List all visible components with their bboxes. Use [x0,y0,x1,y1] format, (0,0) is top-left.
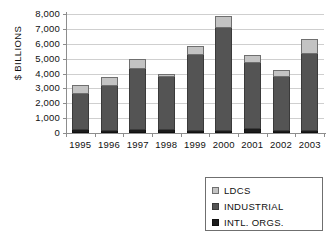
intl-orgs-swatch-icon [212,219,219,226]
bar-group[interactable] [72,14,89,133]
bar-segment-industrial[interactable] [101,86,118,132]
y-tick-label: 8,000 [10,8,60,19]
bar-group[interactable] [244,14,261,133]
x-axis-line [64,133,326,134]
legend-label-industrial: INDUSTRIAL [224,201,283,212]
bar-group[interactable] [158,14,175,133]
y-tick-mark [63,74,67,75]
x-tick-mark [267,133,268,137]
x-tick-mark [66,133,67,137]
bar-group[interactable] [187,14,204,133]
x-tick-mark [209,133,210,137]
bar-segment-ldcs[interactable] [129,59,146,69]
legend-item-ldcs[interactable]: LDCS [212,182,316,198]
bar-segment-ldcs[interactable] [244,55,261,63]
bar-group[interactable] [215,14,232,133]
y-tick-mark [63,118,67,119]
bar-group[interactable] [129,14,146,133]
bar-segment-industrial[interactable] [129,69,146,130]
bar-segment-intl-orgs[interactable] [158,130,175,133]
y-tick-mark [63,103,67,104]
bar-segment-ldcs[interactable] [273,70,290,77]
bar-segment-intl-orgs[interactable] [215,131,232,133]
legend-label-ldcs: LDCS [224,185,251,196]
bar-segment-industrial[interactable] [273,77,290,131]
x-tick-label: 2000 [208,139,240,150]
bar-segment-intl-orgs[interactable] [273,131,290,133]
bar-segment-industrial[interactable] [187,55,204,131]
y-tick-label: 3,000 [10,82,60,93]
bar-group[interactable] [301,14,318,133]
plot-area [66,14,324,133]
y-tick-label: 0 [10,127,60,138]
y-tick-label: 6,000 [10,38,60,49]
bar-segment-industrial[interactable] [215,28,232,131]
x-tick-mark [95,133,96,137]
chart-legend: LDCS INDUSTRIAL INTL. ORGS. [205,177,323,231]
y-tick-label: 4,000 [10,68,60,79]
bar-segment-industrial[interactable] [244,63,261,129]
legend-item-industrial[interactable]: INDUSTRIAL [212,198,316,214]
x-tick-label: 1997 [122,139,154,150]
industrial-swatch-icon [212,203,219,210]
x-tick-mark [324,133,325,137]
bar-segment-intl-orgs[interactable] [187,131,204,133]
bar-segment-intl-orgs[interactable] [244,129,261,133]
bar-segment-intl-orgs[interactable] [101,131,118,133]
ldcs-swatch-icon [212,187,219,194]
x-tick-label: 2002 [265,139,297,150]
bar-segment-industrial[interactable] [158,77,175,130]
x-tick-mark [123,133,124,137]
y-tick-mark [63,59,67,60]
bar-segment-intl-orgs[interactable] [301,131,318,133]
legend-item-intl-orgs[interactable]: INTL. ORGS. [212,214,316,230]
bar-segment-intl-orgs[interactable] [72,130,89,133]
x-tick-label: 1995 [64,139,96,150]
y-tick-label: 1,000 [10,112,60,123]
y-tick-label: 5,000 [10,53,60,64]
bar-segment-ldcs[interactable] [301,39,318,54]
bar-segment-ldcs[interactable] [72,85,89,93]
bar-segment-ldcs[interactable] [187,46,204,55]
y-tick-mark [63,14,67,15]
x-tick-label: 1999 [179,139,211,150]
x-tick-label: 1998 [150,139,182,150]
y-tick-label: 7,000 [10,23,60,34]
bar-group[interactable] [101,14,118,133]
y-tick-mark [63,88,67,89]
x-tick-mark [152,133,153,137]
x-tick-label: 2003 [294,139,326,150]
x-tick-label: 2001 [236,139,268,150]
bar-segment-ldcs[interactable] [101,77,118,86]
y-tick-mark [63,29,67,30]
bar-segment-intl-orgs[interactable] [129,130,146,133]
y-tick-mark [63,44,67,45]
x-tick-mark [238,133,239,137]
bar-segment-ldcs[interactable] [215,16,232,28]
x-tick-label: 1996 [93,139,125,150]
x-tick-mark [181,133,182,137]
y-tick-label: 2,000 [10,97,60,108]
bar-segment-ldcs[interactable] [158,74,175,77]
bar-segment-industrial[interactable] [72,94,89,131]
x-tick-mark [295,133,296,137]
bar-segment-industrial[interactable] [301,54,318,132]
bar-group[interactable] [273,14,290,133]
bar-chart: $ BILLIONS 8,0007,0006,0005,0004,0003,00… [0,0,332,237]
legend-label-intl-orgs: INTL. ORGS. [224,217,284,228]
